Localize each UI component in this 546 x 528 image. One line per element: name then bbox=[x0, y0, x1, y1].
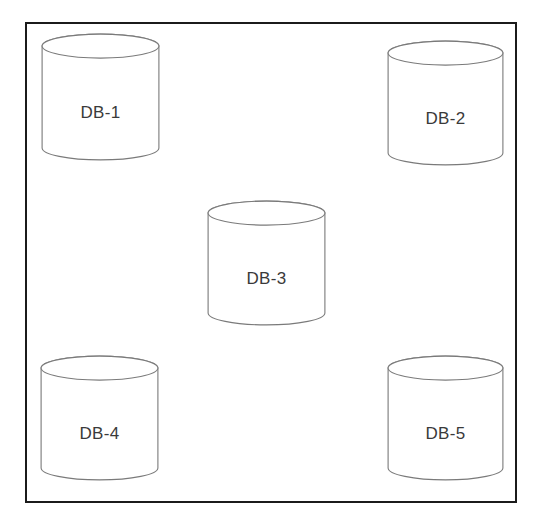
database-label-db-2: DB-2 bbox=[387, 109, 504, 129]
database-label-db-4: DB-4 bbox=[40, 424, 159, 444]
cylinder-icon bbox=[41, 33, 160, 161]
database-node-db-4[interactable]: DB-4 bbox=[40, 355, 159, 481]
cylinder-icon bbox=[387, 40, 504, 166]
database-label-db-5: DB-5 bbox=[387, 424, 504, 444]
database-label-db-1: DB-1 bbox=[41, 103, 160, 123]
database-node-db-2[interactable]: DB-2 bbox=[387, 40, 504, 166]
database-node-db-1[interactable]: DB-1 bbox=[41, 33, 160, 161]
diagram-canvas: DB-1DB-2DB-3DB-4DB-5 bbox=[0, 0, 546, 528]
database-label-db-3: DB-3 bbox=[207, 269, 326, 289]
database-node-db-3[interactable]: DB-3 bbox=[207, 200, 326, 326]
cylinder-icon bbox=[40, 355, 159, 481]
database-node-db-5[interactable]: DB-5 bbox=[387, 355, 504, 481]
cylinder-icon bbox=[207, 200, 326, 326]
cylinder-icon bbox=[387, 355, 504, 481]
